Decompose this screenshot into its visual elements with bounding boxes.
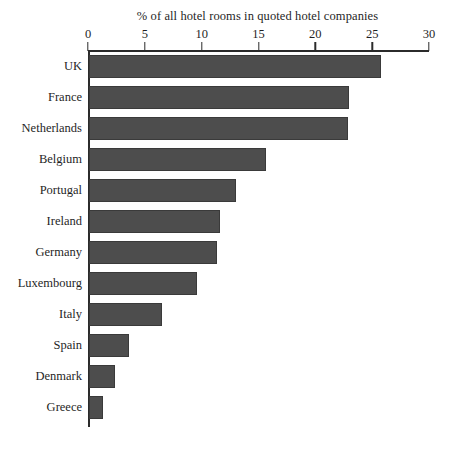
x-tick-label: 15 bbox=[252, 27, 265, 41]
bar-row: Luxembourg bbox=[0, 272, 459, 295]
x-tick-label: 10 bbox=[195, 27, 208, 41]
x-tick-label: 25 bbox=[366, 27, 379, 41]
category-label: Germany bbox=[0, 241, 82, 264]
bar bbox=[89, 396, 103, 419]
bar-row: UK bbox=[0, 55, 459, 78]
bar bbox=[89, 303, 162, 326]
x-axis-tick-labels: 051015202530 bbox=[88, 27, 429, 43]
x-tick-label: 20 bbox=[309, 27, 322, 41]
bar bbox=[89, 117, 348, 140]
bar-row: France bbox=[0, 86, 459, 109]
bar bbox=[89, 55, 381, 78]
x-tick-label: 5 bbox=[142, 27, 148, 41]
bar-row: Germany bbox=[0, 241, 459, 264]
bar-chart: % of all hotel rooms in quoted hotel com… bbox=[0, 0, 459, 449]
bar bbox=[89, 241, 217, 264]
bar bbox=[89, 272, 197, 295]
bar bbox=[89, 210, 220, 233]
bar bbox=[89, 86, 349, 109]
category-label: Luxembourg bbox=[0, 272, 82, 295]
bar-row: Portugal bbox=[0, 179, 459, 202]
bar bbox=[89, 365, 115, 388]
chart-title: % of all hotel rooms in quoted hotel com… bbox=[0, 9, 459, 24]
category-label: Ireland bbox=[0, 210, 82, 233]
x-tick-label: 0 bbox=[85, 27, 91, 41]
category-label: UK bbox=[0, 55, 82, 78]
bar-row: Greece bbox=[0, 396, 459, 419]
plot-area: UKFranceNetherlandsBelgiumPortugalIrelan… bbox=[0, 55, 459, 427]
bar-row: Italy bbox=[0, 303, 459, 326]
category-label: France bbox=[0, 86, 82, 109]
x-axis: 051015202530 bbox=[88, 27, 429, 51]
bar-row: Denmark bbox=[0, 365, 459, 388]
bar bbox=[89, 334, 129, 357]
bar-row: Belgium bbox=[0, 148, 459, 171]
category-label: Denmark bbox=[0, 365, 82, 388]
category-label: Spain bbox=[0, 334, 82, 357]
category-label: Netherlands bbox=[0, 117, 82, 140]
bar-row: Spain bbox=[0, 334, 459, 357]
category-label: Belgium bbox=[0, 148, 82, 171]
category-label: Italy bbox=[0, 303, 82, 326]
category-label: Portugal bbox=[0, 179, 82, 202]
bar bbox=[89, 148, 266, 171]
category-label: Greece bbox=[0, 396, 82, 419]
bar-row: Netherlands bbox=[0, 117, 459, 140]
x-axis-line bbox=[88, 50, 429, 52]
x-tick-label: 30 bbox=[423, 27, 436, 41]
bar bbox=[89, 179, 236, 202]
bar-row: Ireland bbox=[0, 210, 459, 233]
